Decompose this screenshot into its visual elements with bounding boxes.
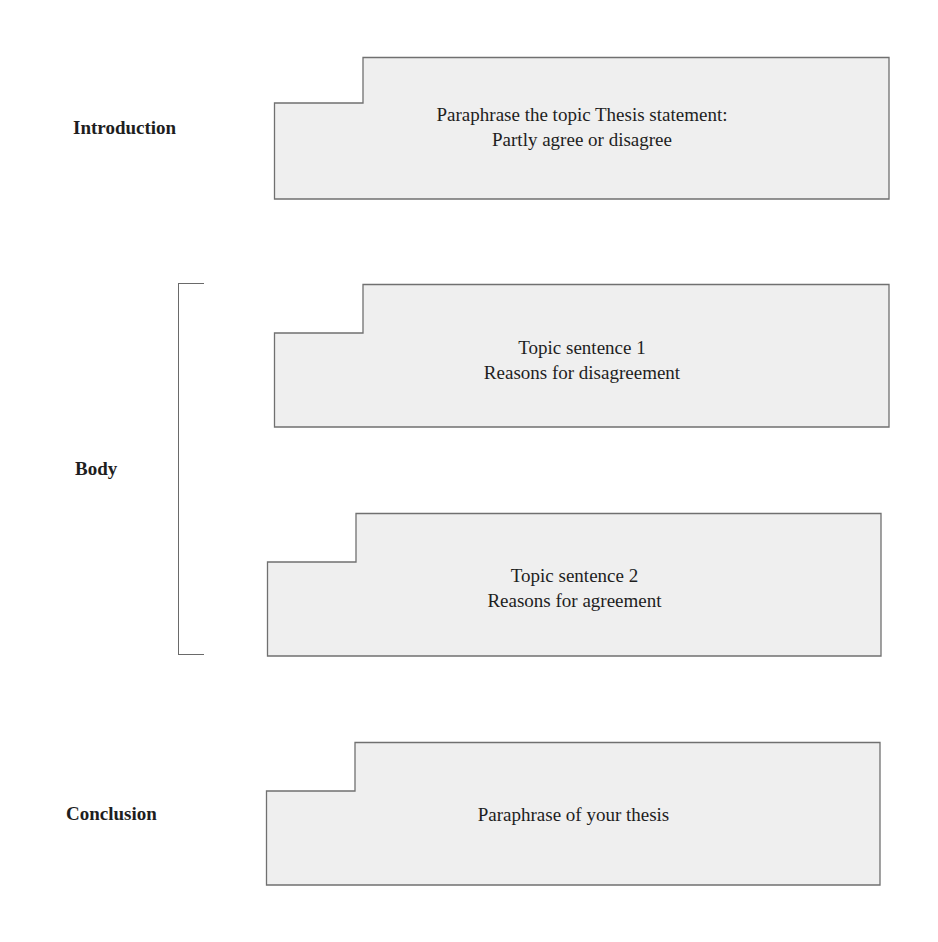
topic-sentence-1-box-text: Topic sentence 1 Reasons for disagreemen… [274,335,890,385]
section-label-introduction: Introduction [73,117,176,139]
box-line: Paraphrase the topic Thesis statement: [274,102,890,127]
box-line: Topic sentence 2 [267,563,882,588]
box-line: Paraphrase of your thesis [266,802,881,827]
box-line: Partly agree or disagree [274,127,890,152]
box-line: Reasons for agreement [267,588,882,613]
body-bracket [178,283,204,655]
box-line: Topic sentence 1 [274,335,890,360]
topic-sentence-2-box: Topic sentence 2 Reasons for agreement [267,513,882,657]
conclusion-box-text: Paraphrase of your thesis [266,802,881,827]
conclusion-box: Paraphrase of your thesis [266,742,881,886]
introduction-box: Paraphrase the topic Thesis statement: P… [274,57,890,200]
topic-sentence-1-box: Topic sentence 1 Reasons for disagreemen… [274,284,890,428]
topic-sentence-2-box-text: Topic sentence 2 Reasons for agreement [267,563,882,613]
box-line: Reasons for disagreement [274,360,890,385]
section-label-body: Body [75,458,117,480]
section-label-conclusion: Conclusion [66,803,157,825]
introduction-box-text: Paraphrase the topic Thesis statement: P… [274,102,890,152]
